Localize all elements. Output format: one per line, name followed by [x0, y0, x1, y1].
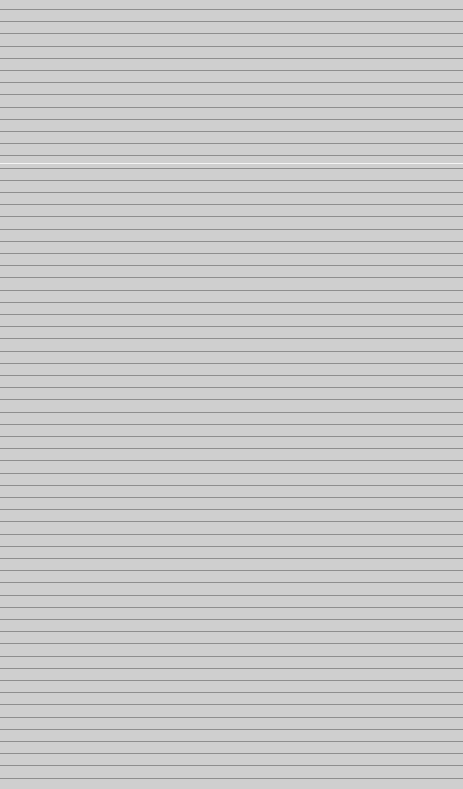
lined-paper-background: [0, 0, 463, 789]
highlight-line: [0, 163, 463, 164]
